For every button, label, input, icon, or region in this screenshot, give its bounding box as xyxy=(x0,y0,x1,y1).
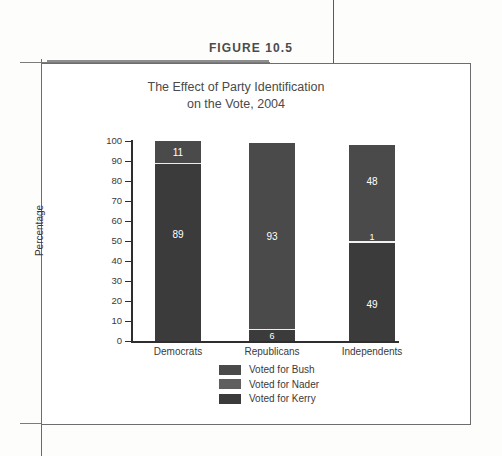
figure-caption-rule xyxy=(47,60,269,62)
legend-swatch-nader-icon xyxy=(219,379,241,389)
scanned-page: FIGURE 10.5 The Effect of Party Identifi… xyxy=(0,0,502,456)
legend-label-bush: Voted for Bush xyxy=(249,364,315,375)
legend-label-nader: Voted for Nader xyxy=(249,379,319,390)
legend-swatch-kerry-icon xyxy=(219,394,241,404)
legend-item-nader[interactable]: Voted for Nader xyxy=(219,378,319,391)
chart-legend: Voted for Bush Voted for Nader Voted for… xyxy=(219,363,319,407)
legend-swatch-bush-icon xyxy=(219,365,241,375)
figure-caption: FIGURE 10.5 xyxy=(0,41,502,55)
chart-title-line-1: The Effect of Party Identification xyxy=(148,80,325,94)
chart-title-line-2: on the Vote, 2004 xyxy=(41,96,431,113)
legend-item-bush[interactable]: Voted for Bush xyxy=(219,363,319,376)
legend-item-kerry[interactable]: Voted for Kerry xyxy=(219,392,319,405)
chart-title: The Effect of Party Identification on th… xyxy=(41,79,431,113)
legend-label-kerry: Voted for Kerry xyxy=(249,393,316,404)
